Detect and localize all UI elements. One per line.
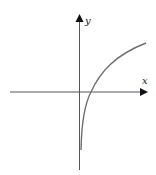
y-axis-label: y: [84, 15, 91, 26]
x-axis-label: x: [142, 75, 148, 86]
log-curve: [81, 43, 146, 150]
y-axis-arrow-icon: [76, 14, 84, 22]
x-axis-arrow-icon: [140, 88, 148, 96]
graph-canvas: y x: [0, 0, 156, 175]
